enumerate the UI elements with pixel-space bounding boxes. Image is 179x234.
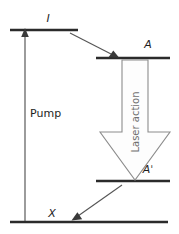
relaxation-arrow-aprime-to-x-shaft bbox=[78, 185, 122, 216]
energy-level-diagram: I A Aˈ X Pump Laser action bbox=[0, 0, 179, 234]
level-label-upper-pump: I bbox=[46, 12, 49, 25]
diagram-canvas: I A Aˈ X Pump Laser action bbox=[0, 0, 179, 234]
level-label-lower-laser: Aˈ bbox=[142, 163, 154, 176]
level-label-upper-laser: A bbox=[143, 38, 152, 51]
relaxation-arrow-i-to-a-shaft bbox=[70, 33, 114, 56]
level-label-ground: X bbox=[47, 207, 56, 220]
transition-label-laser-action: Laser action bbox=[130, 91, 141, 152]
transition-label-pump: Pump bbox=[30, 107, 61, 120]
